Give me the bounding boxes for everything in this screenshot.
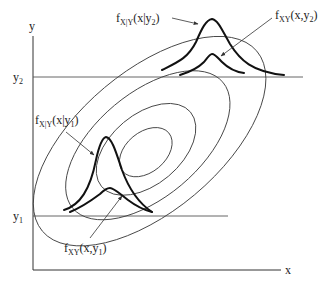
arrow-conditional-y2 [172, 18, 198, 24]
curves-at-y2 [162, 19, 284, 75]
joint-density-curve-y2 [180, 54, 244, 75]
annotation-conditional-y2: fX|Y(x|y2) [116, 11, 198, 27]
annotation-conditional-y1: fX|Y(x|y1) [35, 113, 94, 155]
density-contours [0, 0, 302, 285]
level-label-y1: y1 [13, 209, 23, 225]
annotation-joint-y2: fXY(x,y2) [221, 8, 318, 56]
bivariate-density-diagram: y x y2 y1 fX|Y(x|y2) f [0, 0, 333, 285]
level-label-y2: y2 [13, 70, 23, 86]
axes: y x [29, 19, 291, 277]
x-axis-label: x [285, 263, 291, 277]
label-joint-y1: fXY(x,y1) [64, 241, 107, 257]
label-conditional-y1: fX|Y(x|y1) [35, 113, 79, 129]
label-conditional-y2: fX|Y(x|y2) [116, 11, 160, 27]
y-axis-label: y [29, 19, 35, 33]
arrow-conditional-y1 [66, 132, 94, 155]
contour-3 [39, 42, 256, 248]
conditional-density-curve-y2 [162, 19, 284, 75]
label-joint-y2: fXY(x,y2) [275, 8, 318, 24]
arrow-joint-y1 [90, 196, 122, 238]
contour-outer [0, 0, 302, 285]
contour-inner [110, 118, 182, 187]
